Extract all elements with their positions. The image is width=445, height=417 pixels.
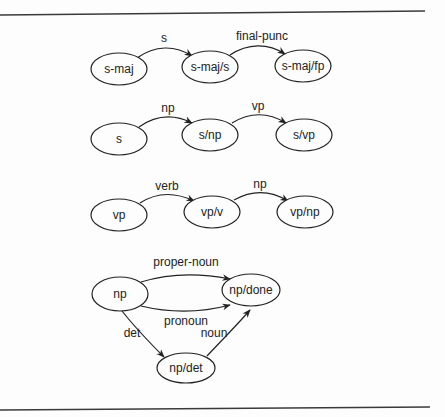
- node-np-det: np/det: [157, 353, 215, 383]
- edge-label: verb: [155, 179, 179, 193]
- edge-label: np: [161, 101, 175, 115]
- node-label: s-maj/fp: [282, 59, 325, 73]
- edge-vp: vp: [232, 99, 286, 123]
- edge-np: np: [234, 177, 288, 201]
- edge-proper-noun: proper-noun: [141, 255, 230, 282]
- edge-final-punc: final-punc: [230, 29, 288, 55]
- edge-noun: noun: [201, 310, 250, 356]
- edge-np: np: [139, 101, 192, 127]
- node-label: vp: [113, 208, 126, 222]
- node-s-vp: s/vp: [276, 119, 332, 151]
- top-rule: [0, 11, 425, 15]
- node-s: s: [91, 123, 147, 155]
- node-vp-v: vp/v: [184, 196, 240, 228]
- node-s-maj: s-maj: [91, 53, 147, 85]
- node-vp: vp: [91, 199, 147, 231]
- node-label: np/done: [229, 283, 273, 297]
- bottom-rule: [0, 407, 430, 410]
- transition-network-diagram: s final-punc s-maj s-maj/s s-maj/fp np v…: [0, 0, 445, 417]
- edge-label: noun: [201, 326, 228, 340]
- node-np-done: np/done: [222, 274, 280, 306]
- node-label: s-maj: [104, 62, 133, 76]
- network-np: proper-noun pronoun det noun np np/done …: [92, 255, 280, 383]
- node-label: s/np: [199, 128, 222, 142]
- network-s: np vp s s/np s/vp: [91, 99, 332, 155]
- node-label: s-maj/s: [191, 60, 230, 74]
- edge-det: det: [122, 311, 164, 357]
- node-label: vp/v: [201, 205, 223, 219]
- edge-s: s: [137, 31, 192, 58]
- node-s-np: s/np: [182, 119, 238, 151]
- edge-label: np: [253, 177, 267, 191]
- edge-label: vp: [252, 99, 265, 113]
- node-s-maj-fp: s-maj/fp: [275, 50, 331, 82]
- node-label: np/det: [169, 361, 203, 375]
- edge-label: s: [161, 31, 167, 45]
- node-label: s/vp: [293, 128, 315, 142]
- node-label: np: [113, 287, 127, 301]
- network-vp: verb np vp vp/v vp/np: [91, 177, 333, 231]
- network-s-maj: s final-punc s-maj s-maj/s s-maj/fp: [91, 29, 331, 85]
- edge-label: det: [124, 326, 141, 340]
- node-np: np: [92, 277, 148, 311]
- node-label: s: [116, 132, 122, 146]
- edge-label: proper-noun: [153, 255, 218, 269]
- edge-label: final-punc: [236, 29, 288, 43]
- node-vp-np: vp/np: [277, 196, 333, 228]
- edge-verb: verb: [140, 179, 194, 203]
- edge-pronoun: pronoun: [141, 305, 230, 328]
- node-s-maj-s: s-maj/s: [182, 51, 238, 83]
- node-label: vp/np: [290, 205, 320, 219]
